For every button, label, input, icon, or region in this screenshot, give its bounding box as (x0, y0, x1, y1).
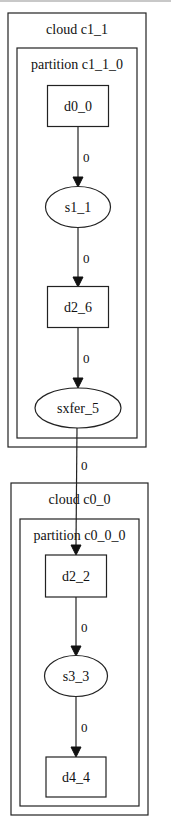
node-d2-6[interactable]: d2_6 (48, 287, 109, 328)
cluster-label: partition c0_0_0 (33, 528, 125, 543)
edge-s1-1-to-d2-6: 0 (73, 228, 90, 287)
edge-d2-2-to-s3-3: 0 (71, 597, 88, 656)
node-label: d0_0 (64, 99, 92, 114)
graph-canvas: cloud c1_1partition c1_1_0cloud c0_0part… (0, 0, 171, 823)
node-label: s1_1 (65, 200, 91, 215)
arrowhead-icon (73, 277, 83, 287)
edge-label: 0 (81, 458, 88, 473)
node-label: d4_4 (62, 770, 90, 785)
node-label: d2_6 (64, 300, 92, 315)
cluster-label: partition c1_1_0 (31, 57, 123, 72)
node-sxfer-5[interactable]: sxfer_5 (35, 388, 121, 428)
node-s3-3[interactable]: s3_3 (45, 656, 108, 697)
edge-d2-6-to-sxfer-5: 0 (73, 328, 90, 388)
arrowhead-icon (71, 545, 81, 555)
arrowhead-icon (73, 378, 83, 388)
arrowhead-icon (71, 747, 81, 757)
edge-label: 0 (83, 150, 90, 165)
edge-label: 0 (83, 351, 90, 366)
node-label: d2_2 (62, 569, 90, 584)
edge-label: 0 (81, 620, 88, 635)
node-label: s3_3 (63, 669, 89, 684)
edge-label: 0 (81, 720, 88, 735)
arrowhead-icon (71, 646, 81, 656)
edge-s3-3-to-d4-4: 0 (71, 697, 88, 757)
node-label: sxfer_5 (57, 401, 99, 416)
edge-label: 0 (83, 251, 90, 266)
node-d2-2[interactable]: d2_2 (46, 555, 107, 597)
edge-d0-0-to-s1-1: 0 (73, 127, 90, 187)
node-s1-1[interactable]: s1_1 (46, 187, 111, 228)
cluster-label: cloud c0_0 (49, 492, 111, 507)
node-d4-4[interactable]: d4_4 (46, 757, 106, 797)
arrowhead-icon (73, 177, 83, 187)
nodes-layer: d0_0s1_1d2_6sxfer_5d2_2s3_3d4_4 (35, 86, 121, 798)
cluster-label: cloud c1_1 (46, 22, 108, 37)
node-d0-0[interactable]: d0_0 (48, 86, 109, 127)
